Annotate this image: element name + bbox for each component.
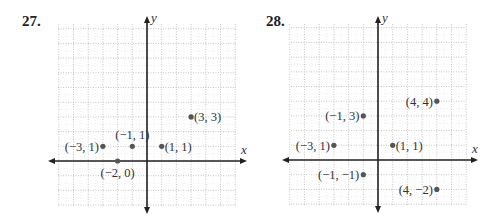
point-label: (−1, 1) bbox=[115, 128, 149, 142]
data-point: (−3, 1) bbox=[296, 139, 337, 153]
point-dot-icon bbox=[189, 114, 194, 119]
y-axis-arrow-up-icon bbox=[144, 16, 150, 23]
y-axis-label: y bbox=[149, 10, 157, 25]
point-label: (−3, 1) bbox=[296, 139, 330, 153]
point-dot-icon bbox=[100, 144, 105, 149]
coordinate-plane-27: xy(−3, 1)(−1, 1)(1, 1)(3, 3)(−2, 0) bbox=[0, 0, 251, 224]
y-axis-arrow-down-icon bbox=[144, 207, 150, 214]
data-point: (4, −2) bbox=[399, 183, 440, 197]
x-axis-arrow-right-icon bbox=[471, 157, 478, 163]
x-axis-arrow-left-icon bbox=[282, 157, 289, 163]
point-label: (1, 1) bbox=[165, 140, 192, 154]
data-point: (−1, 3) bbox=[325, 109, 366, 123]
data-point: (−1, −1) bbox=[318, 168, 366, 182]
coordinate-plane-28: xy(4, 4)(−1, 3)(−3, 1)(1, 1)(−1, −1)(4, … bbox=[251, 0, 502, 224]
x-axis-label: x bbox=[471, 141, 478, 156]
data-point: (3, 3) bbox=[189, 110, 222, 124]
point-label: (−3, 1) bbox=[65, 140, 99, 154]
x-axis-label: x bbox=[240, 142, 247, 157]
axes: xy bbox=[282, 10, 478, 213]
y-axis-arrow-down-icon bbox=[375, 206, 381, 213]
point-dot-icon bbox=[390, 143, 395, 148]
point-label: (−1, −1) bbox=[318, 168, 359, 182]
y-axis-label: y bbox=[380, 10, 388, 25]
point-dot-icon bbox=[361, 113, 366, 118]
point-dot-icon bbox=[331, 143, 336, 148]
points: (4, 4)(−1, 3)(−3, 1)(1, 1)(−1, −1)(4, −2… bbox=[296, 95, 440, 197]
problem-28: 28. xy(4, 4)(−1, 3)(−3, 1)(1, 1)(−1, −1)… bbox=[251, 0, 502, 224]
point-dot-icon bbox=[115, 158, 120, 163]
point-dot-icon bbox=[434, 99, 439, 104]
point-label: (−2, 0) bbox=[101, 166, 135, 180]
point-dot-icon bbox=[361, 172, 366, 177]
data-point: (−3, 1) bbox=[65, 140, 106, 154]
point-label: (4, −2) bbox=[399, 183, 433, 197]
point-dot-icon bbox=[130, 144, 135, 149]
point-dot-icon bbox=[159, 144, 164, 149]
point-label: (1, 1) bbox=[396, 139, 423, 153]
point-label: (3, 3) bbox=[194, 110, 221, 124]
data-point: (1, 1) bbox=[390, 139, 423, 153]
point-label: (4, 4) bbox=[406, 95, 433, 109]
data-point: (1, 1) bbox=[159, 140, 192, 154]
data-point: (4, 4) bbox=[406, 95, 440, 109]
y-axis-arrow-up-icon bbox=[375, 16, 381, 23]
point-dot-icon bbox=[434, 187, 439, 192]
point-label: (−1, 3) bbox=[325, 109, 359, 123]
problem-27: 27. xy(−3, 1)(−1, 1)(1, 1)(3, 3)(−2, 0) bbox=[0, 0, 251, 224]
x-axis-arrow-right-icon bbox=[240, 158, 247, 164]
x-axis-arrow-left-icon bbox=[48, 158, 55, 164]
data-point: (−1, 1) bbox=[115, 128, 149, 149]
